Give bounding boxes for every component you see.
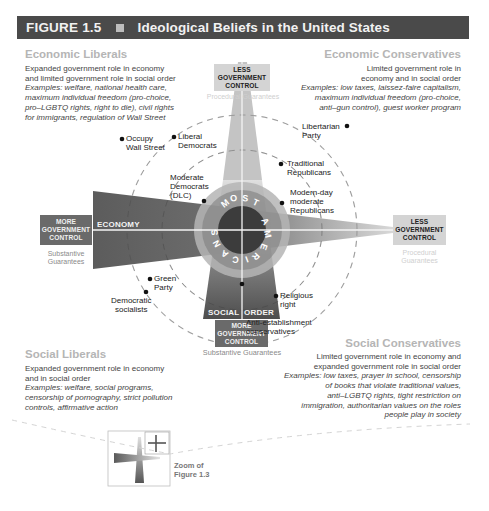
social-conservatives-description: Limited government role in economy and e… xyxy=(261,352,461,420)
example-line: anti–LGBTQ rights, tight restriction on xyxy=(261,391,461,401)
inset-caption-line: Figure 1.3 xyxy=(174,471,209,480)
group-label-line: Moderate xyxy=(170,173,209,182)
example-line: Examples: welfare, social programs, xyxy=(25,383,205,393)
group-label-line: Libertarian xyxy=(302,122,340,131)
group-label-line: Party xyxy=(154,283,176,292)
right-less-government-control-box: LESS GOVERNMENT CONTROL xyxy=(393,215,446,245)
example-line: for immigrants, regulation of Wall Stree… xyxy=(25,113,205,123)
box-line: GOVERNMENT xyxy=(214,74,270,82)
social-liberals-title: Social Liberals xyxy=(25,348,106,360)
group-religious-right: Religious right xyxy=(280,291,313,309)
example-line: maximum individual freedom (pro-choice, xyxy=(271,93,461,103)
box-line: LESS xyxy=(393,218,446,226)
group-liberal-democrats: Liberal Democrats xyxy=(178,132,217,150)
top-less-government-control-box: LESS GOVERNMENT CONTROL xyxy=(214,64,270,91)
group-libertarian-party: Libertarian Party xyxy=(302,122,340,140)
group-label-line: right xyxy=(280,300,313,309)
guarantee-line: Substantive xyxy=(40,250,92,258)
group-label-line: Modern-day xyxy=(290,188,334,197)
example-line: anti–gun control), guest worker program xyxy=(271,103,461,113)
desc-line: Expanded government role in economy xyxy=(25,364,205,374)
guarantee-line: Guarantees xyxy=(393,257,446,265)
group-label-line: Anti-establishment xyxy=(246,318,312,327)
guarantee-line: Guarantees xyxy=(40,258,92,266)
box-line: CONTROL xyxy=(214,82,270,90)
group-moderate-democrats: Moderate Democrats (DLC) xyxy=(170,173,209,200)
inset-zoom-of-figure-1-3 xyxy=(12,420,470,486)
economic-conservatives-title: Economic Conservatives xyxy=(324,48,461,60)
order-axis-label: ORDER xyxy=(244,308,274,317)
social-liberals-description: Expanded government role in economy and … xyxy=(25,364,205,413)
desc-line: economy and in social order xyxy=(271,74,461,84)
example-line: people play in society xyxy=(261,410,461,420)
top-procedural-guarantees: Procedural Guarantees xyxy=(195,93,291,101)
group-label-line: Liberal xyxy=(178,132,217,141)
example-line: controls, affirmative action xyxy=(25,403,205,413)
economic-liberals-description: Expanded government role in economy and … xyxy=(25,64,205,122)
group-label-line: Democratic xyxy=(111,296,151,305)
economic-conservatives-description: Limited government role in economy and i… xyxy=(271,64,461,113)
right-procedural-guarantees: Procedural Guarantees xyxy=(393,249,446,265)
left-substantive-guarantees: Substantive Guarantees xyxy=(40,250,92,266)
svg-text:S: S xyxy=(242,193,249,203)
desc-line: expanded government role in social order xyxy=(261,362,461,372)
group-occupy-wall-street: Occupy Wall Street xyxy=(126,134,165,152)
example-line: pro–LGBTQ rights, right to die), civil r… xyxy=(25,103,205,113)
group-anti-establishment-conservatives: Anti-establishment conservatives xyxy=(246,318,312,336)
example-line: maximum individual freedom (pro-choice, xyxy=(25,93,205,103)
social-axis-label: SOCIAL xyxy=(208,308,239,317)
group-modern-day-moderate-republicans: Modern-day moderate Republicans xyxy=(290,188,334,215)
box-line: CONTROL xyxy=(393,234,446,242)
group-label-line: socialists xyxy=(111,305,151,314)
box-line: CONTROL xyxy=(40,234,92,242)
desc-line: Expanded government role in economy xyxy=(25,64,205,74)
box-line: GOVERNMENT xyxy=(40,226,92,234)
group-label-line: moderate xyxy=(290,197,334,206)
group-democratic-socialists: Democratic socialists xyxy=(111,296,151,314)
example-line: of books that violate traditional values… xyxy=(261,381,461,391)
example-line: Examples: low taxes, laissez-faire capit… xyxy=(271,83,461,93)
group-traditional-republicans: Traditional Republicans xyxy=(287,159,331,177)
inset-caption: Zoom of Figure 1.3 xyxy=(174,462,209,479)
group-label-line: Democrats xyxy=(178,141,217,150)
group-label-line: Republicans xyxy=(290,206,334,215)
example-line: Examples: low taxes, prayer in school, c… xyxy=(261,371,461,381)
economic-liberals-title: Economic Liberals xyxy=(25,48,127,60)
desc-line: and limited government role in social or… xyxy=(25,74,205,84)
group-label-line: Republicans xyxy=(287,168,331,177)
example-line: censorship of pornography, strict pollut… xyxy=(25,393,205,403)
box-line: LESS xyxy=(214,66,270,74)
economy-axis-label: ECONOMY xyxy=(97,220,140,229)
example-line: immigration, authoritarian values on the… xyxy=(261,401,461,411)
desc-line: and in social order xyxy=(25,374,205,384)
box-line: MORE xyxy=(40,218,92,226)
social-conservatives-title: Social Conservatives xyxy=(345,337,461,349)
desc-line: Limited government role in xyxy=(271,64,461,74)
group-label-line: Green xyxy=(154,274,176,283)
group-label-line: conservatives xyxy=(246,327,312,336)
group-label-line: Occupy xyxy=(126,134,165,143)
group-green-party: Green Party xyxy=(154,274,176,292)
left-more-government-control-box: MORE GOVERNMENT CONTROL xyxy=(40,215,92,245)
bottom-substantive-guarantees: Substantive Guarantees xyxy=(190,349,294,357)
group-label-line: (DLC) xyxy=(170,191,209,200)
group-label-line: Wall Street xyxy=(126,143,165,152)
group-label-line: Traditional xyxy=(287,159,331,168)
example-line: Examples: welfare, national health care, xyxy=(25,83,205,93)
box-line: CONTROL xyxy=(215,338,268,346)
group-label-line: Party xyxy=(302,131,340,140)
guarantee-line: Procedural xyxy=(393,249,446,257)
group-label-line: Democrats xyxy=(170,182,209,191)
group-label-line: Religious xyxy=(280,291,313,300)
box-line: GOVERNMENT xyxy=(393,226,446,234)
